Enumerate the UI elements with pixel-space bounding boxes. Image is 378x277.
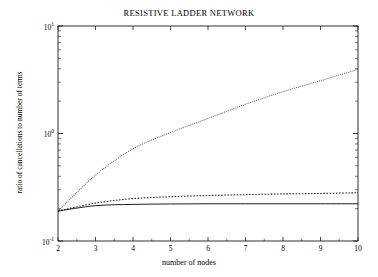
x-tick-label: 7 — [236, 244, 256, 253]
x-tick-label: 4 — [123, 244, 143, 253]
series-line-1 — [58, 193, 358, 211]
plot-canvas — [0, 0, 378, 277]
series-line-2 — [58, 204, 358, 211]
y-tick-exponent: 1 — [51, 21, 54, 27]
x-tick-label: 5 — [161, 244, 181, 253]
x-tick-label: 3 — [86, 244, 106, 253]
x-tick-label: 9 — [311, 244, 331, 253]
y-tick-label: 101 — [18, 21, 54, 32]
x-tick-label: 8 — [273, 244, 293, 253]
x-tick-label: 2 — [48, 244, 68, 253]
x-tick-label: 6 — [198, 244, 218, 253]
x-tick-label: 10 — [348, 244, 368, 253]
y-tick-exponent: -1 — [49, 236, 54, 242]
y-tick-exponent: 0 — [51, 128, 54, 134]
chart-figure: RESISTIVE LADDER NETWORK ratio of cancel… — [0, 0, 378, 277]
series-line-0 — [58, 69, 358, 211]
y-tick-label: 100 — [18, 128, 54, 139]
axis-frame — [58, 26, 358, 241]
